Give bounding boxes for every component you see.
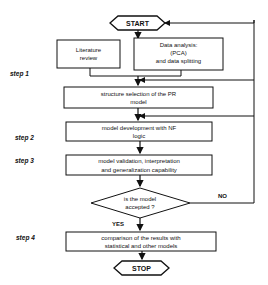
validation-label-2: and generalization capability [101, 167, 177, 173]
comparison-label-2: statistical and other models [105, 243, 178, 249]
data-analysis-label-1: Data analysis: [160, 42, 198, 48]
step-1-label: step 1 [10, 70, 29, 78]
no-label: NO [218, 193, 227, 199]
decision-node: is the model accepted ? [91, 188, 190, 218]
structure-label-1: structure selection of the PR [101, 91, 177, 97]
structure-label-2: model [130, 99, 146, 105]
yes-label: YES [112, 221, 124, 227]
step-4-label: step 4 [16, 234, 35, 242]
start-node: START [110, 16, 165, 30]
development-label-2: logic [133, 133, 145, 139]
step-3-label: step 3 [15, 157, 34, 165]
data-analysis-node: Data analysis: (PCA) and data splitting [134, 38, 223, 70]
data-analysis-label-3: and data splitting [156, 58, 201, 64]
start-label: START [126, 20, 150, 27]
model-development-node: model development with NF logic [66, 122, 212, 141]
validation-label-1: model validation, interpretation [98, 158, 180, 164]
stop-node: STOP [114, 261, 169, 275]
decision-label-2: accepted ? [125, 204, 155, 210]
literature-label-1: Literature [76, 47, 102, 53]
decision-label-1: is the model [124, 196, 156, 202]
model-validation-node: model validation, interpretation and gen… [66, 155, 212, 175]
step-2-label: step 2 [15, 134, 34, 142]
literature-label-2: review [80, 55, 98, 61]
feedback-to-start [165, 20, 254, 23]
literature-review-node: Literature review [57, 40, 120, 68]
data-analysis-label-2: (PCA) [170, 50, 186, 56]
development-label-1: model development with NF [102, 125, 177, 131]
comparison-label-1: comparison of the results with [101, 235, 180, 241]
comparison-node: comparison of the results with statistic… [66, 232, 216, 251]
structure-selection-node: structure selection of the PR model [64, 87, 213, 108]
stop-label: STOP [132, 265, 151, 272]
flowchart: START Literature review Data analysis: (… [0, 0, 268, 285]
